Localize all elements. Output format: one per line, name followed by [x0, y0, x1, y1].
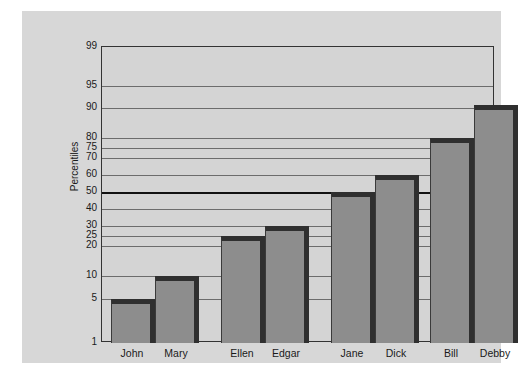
x-axis-tick-labels: JohnMaryEllenEdgarJaneDickBillDebby: [101, 347, 494, 363]
x-tick-label-jane: Jane: [341, 347, 364, 359]
bar-edgar[interactable]: [265, 226, 309, 343]
x-tick-label-mary: Mary: [164, 347, 187, 359]
x-tick-label-john: John: [121, 347, 144, 359]
y-tick-label: 99: [71, 41, 97, 51]
bar-debby[interactable]: [474, 105, 518, 343]
y-tick-label: 5: [71, 293, 97, 303]
y-tick-label: 70: [71, 152, 97, 162]
y-tick-label: 20: [71, 240, 97, 250]
gridline: [102, 108, 493, 109]
gridline: [102, 86, 493, 87]
bar-ellen[interactable]: [221, 236, 265, 343]
bar-mary[interactable]: [155, 276, 199, 343]
y-tick-label: 1: [71, 337, 97, 347]
x-tick-label-bill: Bill: [444, 347, 458, 359]
x-tick-label-debby: Debby: [480, 347, 510, 359]
y-tick-label: 60: [71, 169, 97, 179]
y-axis-tick-labels: 9995908075706050403025201051: [69, 46, 97, 342]
bar-john[interactable]: [111, 299, 155, 343]
x-tick-label-ellen: Ellen: [230, 347, 253, 359]
bar-jane[interactable]: [331, 192, 375, 343]
figure: Percentiles 9995908075706050403025201051…: [0, 0, 523, 374]
bar-dick[interactable]: [375, 175, 419, 343]
y-tick-label: 90: [71, 102, 97, 112]
plot-area: [101, 46, 494, 342]
y-tick-label: 10: [71, 270, 97, 280]
y-tick-label: 95: [71, 80, 97, 90]
y-tick-label: 40: [71, 203, 97, 213]
x-tick-label-dick: Dick: [386, 347, 406, 359]
chart-canvas: Percentiles 9995908075706050403025201051…: [22, 11, 501, 363]
bar-bill[interactable]: [430, 138, 474, 343]
y-tick-label: 50: [71, 186, 97, 196]
x-tick-label-edgar: Edgar: [272, 347, 300, 359]
